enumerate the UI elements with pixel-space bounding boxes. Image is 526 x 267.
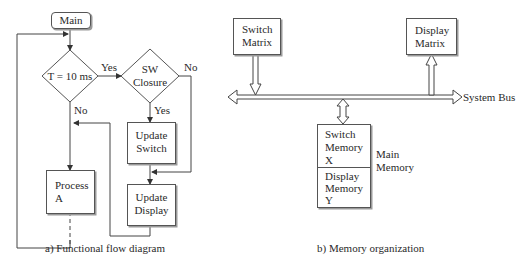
display-matrix-arrow	[426, 54, 437, 95]
main-memory-box: Switch Memory X Display Memory Y	[317, 124, 371, 208]
switch-matrix-label-1: Switch	[242, 23, 273, 36]
memory-divider	[318, 167, 370, 168]
decision-sw-label-1: SW	[121, 63, 179, 76]
switch-memory-label-1: Switch	[325, 128, 356, 141]
switch-matrix-label-2: Matrix	[242, 36, 272, 49]
decision-sw-label-2: Closure	[121, 76, 179, 89]
memory-caption: b) Memory organization	[317, 242, 424, 255]
system-bus-label: System Bus	[463, 91, 515, 104]
main-terminator: Main	[51, 12, 91, 29]
update-display-box: Update Display	[127, 184, 176, 226]
update-display-label-2: Display	[128, 204, 175, 217]
display-matrix-label-2: Matrix	[415, 37, 445, 50]
switch-memory-label-3: X	[325, 154, 333, 167]
decision2-no-label: No	[184, 61, 197, 74]
display-matrix-label-1: Display	[415, 24, 449, 37]
process-a-label-2: A	[55, 192, 63, 205]
update-switch-box: Update Switch	[127, 122, 176, 164]
flow-caption: a) Functional flow diagram	[45, 242, 165, 255]
switch-memory-label-2: Memory	[325, 141, 363, 154]
main-memory-label-1: Main	[376, 148, 399, 161]
main-memory-label-2: Memory	[376, 161, 414, 174]
decision1-yes-label: Yes	[101, 61, 117, 74]
process-a-label-1: Process	[55, 179, 89, 192]
decision2-yes-label: Yes	[154, 104, 170, 117]
display-matrix-box: Display Matrix	[406, 18, 457, 55]
memory-bus-arrow	[337, 99, 349, 124]
decision-t10ms-label: T = 10 ms	[42, 70, 98, 83]
update-switch-label-1: Update	[128, 129, 175, 142]
display-memory-label-3: Y	[325, 194, 333, 207]
update-switch-label-2: Switch	[128, 142, 175, 155]
decision1-no-label: No	[74, 104, 87, 117]
process-a-box: Process A	[46, 170, 95, 214]
update-display-label-1: Update	[128, 191, 175, 204]
switch-matrix-arrow	[250, 53, 261, 95]
main-label: Main	[52, 14, 90, 27]
switch-matrix-box: Switch Matrix	[233, 18, 281, 55]
